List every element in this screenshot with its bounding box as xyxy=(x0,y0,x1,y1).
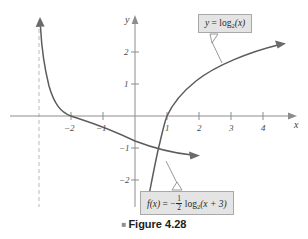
callout-log-equals: = xyxy=(212,18,217,28)
y-axis-arrowhead xyxy=(132,15,139,24)
callout-log-arg: (x) xyxy=(235,18,246,28)
callout-log-tail xyxy=(210,34,218,43)
x-tick-label-neg1: −1 xyxy=(96,124,107,133)
x-tick-label-neg2: −2 xyxy=(64,124,75,133)
x-tick-label-1: 1 xyxy=(165,124,170,133)
callout-f-tail xyxy=(172,182,182,190)
callout-f-leader-line xyxy=(166,161,177,183)
callout-log-leader-line xyxy=(212,42,222,63)
y-tick-label-1: 1 xyxy=(124,80,129,89)
x-tick-label-4: 4 xyxy=(261,124,266,133)
callout-f-fn: log xyxy=(185,199,197,209)
x-tick-label-2: 2 xyxy=(197,124,202,133)
callout-log-fn: log xyxy=(219,18,231,28)
callout-f-lhs: f(x) xyxy=(147,199,160,209)
curve-f-arrowhead-up xyxy=(36,17,45,27)
curve-f-arrowhead-right xyxy=(189,151,200,159)
callout-f-sign: − xyxy=(170,199,175,209)
callout-f-fraction: 12 xyxy=(176,195,182,211)
caption-bullet-icon: ■ xyxy=(122,220,127,229)
x-tick-label-3: 3 xyxy=(229,124,234,133)
x-axis-label: x xyxy=(294,120,298,130)
y-tick-label-neg2: −2 xyxy=(119,176,130,185)
y-tick-label-neg1: −1 xyxy=(119,144,130,153)
callout-log2x: y = log2(x) xyxy=(198,14,252,33)
callout-f-arg: (x + 3) xyxy=(200,199,226,209)
y-axis-label: y xyxy=(125,15,129,25)
fraction-denominator: 2 xyxy=(176,204,182,212)
curve-f-of-x xyxy=(41,27,193,155)
figure-container: x y −2 −1 1 2 3 4 2 1 −1 −2 y = log2(x) … xyxy=(0,0,308,239)
curve-log-arrowhead-upper-right xyxy=(275,40,286,48)
callout-f-equals: = xyxy=(163,199,168,209)
figure-caption: ■Figure 4.28 xyxy=(0,219,308,230)
callout-log-lhs: y xyxy=(205,18,209,28)
caption-text: Figure 4.28 xyxy=(128,218,186,230)
callout-f-of-x: f(x) = −12 log2(x + 3) xyxy=(140,191,234,215)
y-tick-label-2: 2 xyxy=(124,48,129,57)
